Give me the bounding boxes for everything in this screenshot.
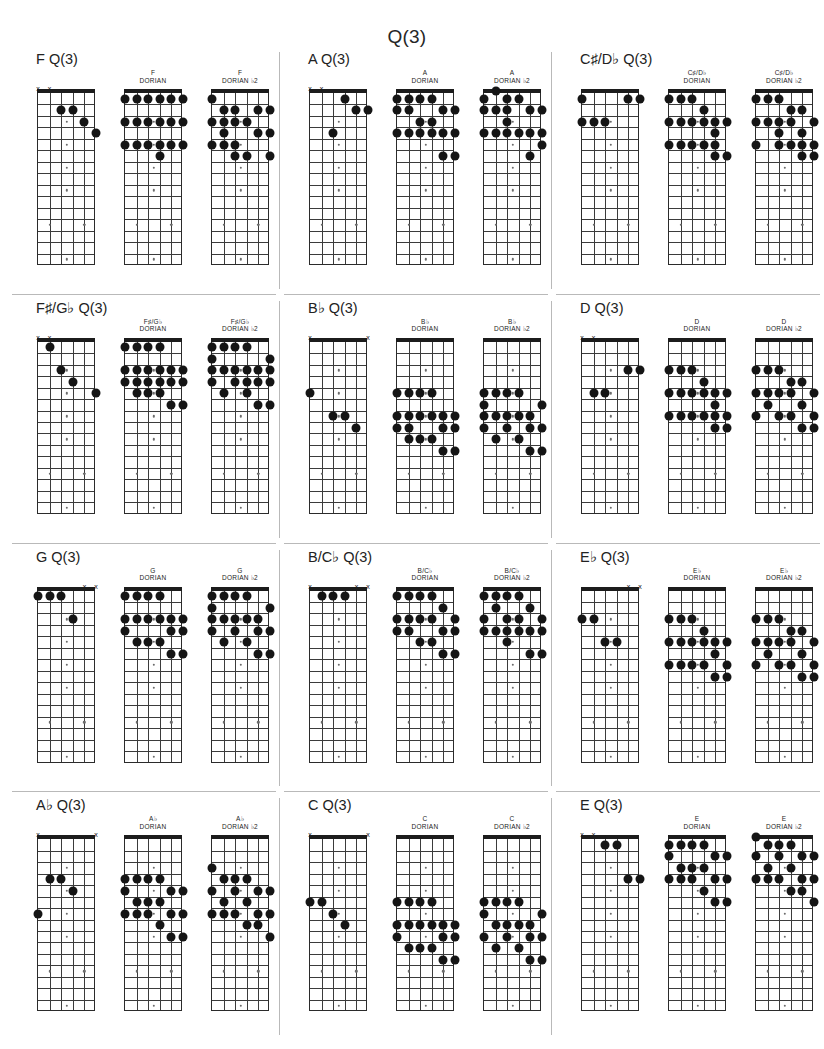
note-dot (786, 886, 795, 895)
fret-line (669, 353, 725, 354)
note-dot (578, 117, 587, 126)
fret-line (212, 965, 268, 966)
fretboard-diagram: C♯/D♭Q(3) (570, 69, 650, 265)
string-line (258, 93, 259, 264)
fret-line (212, 196, 268, 197)
fretboard-grid (581, 591, 639, 763)
fretboard-diagram: A♭DORIAN (113, 815, 193, 1011)
cell-title: E Q(3) (580, 796, 824, 814)
note-dot (503, 615, 512, 624)
fretboard-label: EDORIAN (684, 815, 711, 831)
fretboard-grid (755, 591, 813, 763)
fretboard-grid (483, 93, 541, 265)
fretboard-label-root: D (695, 318, 700, 325)
note-dot (763, 638, 772, 647)
fret-line (212, 242, 268, 243)
note-dot (676, 366, 685, 375)
inlay-marker (153, 258, 155, 260)
note-dot (526, 152, 535, 161)
fret-line (484, 399, 540, 400)
note-dot (480, 909, 489, 918)
note-dot (416, 921, 425, 930)
inlay-marker (66, 913, 68, 915)
inlay-marker (66, 166, 68, 168)
fret-line (212, 717, 268, 718)
cell-title: A♭ Q(3) (36, 796, 280, 814)
fret-line (397, 353, 453, 354)
note-dot (393, 592, 402, 601)
note-dot (503, 921, 512, 930)
fretboard (396, 334, 454, 514)
note-dot (786, 389, 795, 398)
note-dot (92, 389, 101, 398)
fretboard-label-root: B♭ (508, 318, 516, 325)
inlay-marker (512, 756, 514, 758)
fret-line (484, 885, 540, 886)
note-dot (427, 389, 436, 398)
nut (37, 89, 95, 93)
fret-line (310, 1000, 366, 1001)
fret-line (484, 694, 540, 695)
fretboard-diagram: GQ(3)xx (26, 567, 106, 763)
note-dot (242, 592, 251, 601)
note-dot (688, 615, 697, 624)
string-line (791, 342, 792, 513)
fret-line (310, 885, 366, 886)
inlay-marker (153, 890, 155, 892)
fretboard: xx (309, 831, 367, 1011)
fret-line (310, 694, 366, 695)
inlay-marker (240, 913, 242, 915)
nut (755, 835, 813, 839)
note-dot (786, 117, 795, 126)
nut (581, 89, 639, 93)
note-dot (538, 423, 547, 432)
note-dot (514, 412, 523, 421)
string-line (779, 839, 780, 1010)
fret-line (38, 988, 94, 989)
fret-line (125, 162, 181, 163)
note-dot (723, 389, 732, 398)
note-dot (266, 354, 275, 363)
note-dot (167, 909, 176, 918)
fretboard-label: DDORIAN ♭2 (766, 318, 802, 334)
fret-line (756, 694, 812, 695)
inlay-marker (610, 687, 612, 689)
inlay-marker (512, 166, 514, 168)
note-dot (711, 672, 720, 681)
nut (396, 587, 454, 591)
fret-line (582, 208, 638, 209)
fret-line (397, 659, 453, 660)
note-dot (404, 921, 413, 930)
note-dot (231, 886, 240, 895)
note-dot (480, 400, 489, 409)
cell-title: D Q(3) (580, 299, 824, 317)
note-dot (306, 898, 315, 907)
fret-line (38, 942, 94, 943)
fret-line (125, 717, 181, 718)
inlay-marker (66, 507, 68, 509)
note-dot (155, 592, 164, 601)
fret-line (38, 705, 94, 706)
note-dot (491, 898, 500, 907)
note-dot (810, 117, 819, 126)
fret-line (397, 740, 453, 741)
fretboard-label-mode: DORIAN ♭2 (766, 574, 802, 581)
fret-line (310, 456, 366, 457)
fretboard-label: B/C♭DORIAN ♭2 (494, 567, 530, 583)
note-dot (775, 117, 784, 126)
fretboard-diagram: AQ(3)xx (298, 69, 378, 265)
note-dot (167, 400, 176, 409)
fret-line (38, 399, 94, 400)
fretboard: xx (309, 85, 367, 265)
note-dot (132, 898, 141, 907)
note-dot (711, 117, 720, 126)
inlay-marker (610, 936, 612, 938)
fretboard-grid (124, 839, 182, 1011)
fret-line (669, 717, 725, 718)
fret-line (125, 353, 181, 354)
inlay-marker (153, 867, 155, 869)
note-dot (752, 661, 761, 670)
nut (124, 89, 182, 93)
fretboard-grid (37, 591, 95, 763)
note-dot (526, 412, 535, 421)
